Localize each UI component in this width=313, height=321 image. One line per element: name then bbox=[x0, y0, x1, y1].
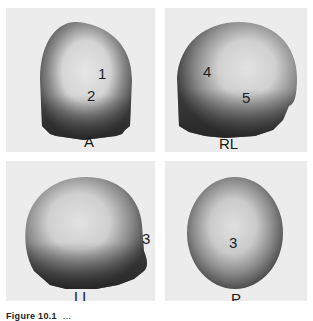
head-scan-image bbox=[165, 161, 307, 301]
panel-left-lateral: 3 LL bbox=[6, 161, 155, 301]
head-scan-image bbox=[165, 8, 307, 152]
view-label-posterior: P bbox=[231, 291, 241, 301]
caption-label: Figure 10.1 bbox=[6, 311, 57, 321]
view-label-anterior: A bbox=[84, 134, 94, 149]
head-scan-image bbox=[6, 8, 155, 152]
marker-5: 5 bbox=[242, 90, 250, 105]
marker-1: 1 bbox=[98, 66, 106, 81]
panel-anterior: 1 2 A bbox=[6, 8, 155, 152]
figure-caption: Figure 10.1... bbox=[6, 311, 71, 321]
panel-right-lateral: 4 5 RL bbox=[165, 8, 307, 152]
panel-posterior: 3 P bbox=[165, 161, 307, 301]
view-label-left-lateral: LL bbox=[74, 289, 91, 301]
head-scan-image bbox=[6, 161, 155, 301]
marker-4: 4 bbox=[203, 64, 211, 79]
marker-2: 2 bbox=[87, 88, 95, 103]
view-label-right-lateral: RL bbox=[219, 136, 238, 151]
caption-text: ... bbox=[63, 311, 71, 321]
marker-3: 3 bbox=[229, 235, 237, 250]
marker-3: 3 bbox=[142, 231, 150, 246]
